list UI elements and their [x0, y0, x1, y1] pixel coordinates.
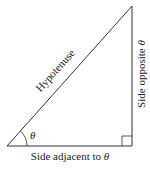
adjacent-side-label: Side adjacent to θ: [31, 150, 110, 162]
adjacent-side-text: Side adjacent to: [31, 150, 104, 162]
hypotenuse-line: [7, 6, 132, 146]
right-triangle-diagram: θ Hypotenuse Side opposite θ Side adjace…: [0, 0, 150, 170]
opposite-side-text: Side opposite: [135, 46, 147, 108]
hypotenuse-label: Hypotenuse: [33, 47, 77, 94]
right-angle-marker-icon: [122, 136, 132, 146]
angle-arc-icon: [20, 131, 27, 146]
opposite-side-label: Side opposite θ: [135, 40, 147, 108]
angle-theta-label: θ: [30, 129, 36, 141]
opposite-theta-symbol: θ: [135, 40, 147, 46]
adjacent-theta-symbol: θ: [104, 150, 110, 162]
